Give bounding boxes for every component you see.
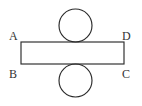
vertex-label-b: B [9, 67, 17, 81]
vertex-label-c: C [122, 67, 130, 81]
vertex-label-a: A [9, 29, 18, 43]
vertex-label-d: D [122, 29, 131, 43]
figure-canvas: A D B C [0, 0, 142, 106]
geometry-figure: A D B C [0, 0, 142, 106]
